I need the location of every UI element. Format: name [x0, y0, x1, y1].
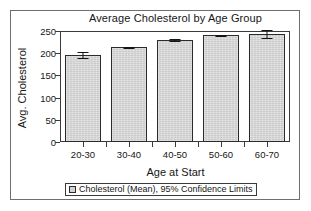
y-axis-tick-mark — [55, 142, 60, 143]
y-axis-tick-label: 0 — [30, 137, 56, 148]
x-axis-tick-label-20-30: 20-30 — [71, 149, 95, 160]
y-axis-tick-label: 100 — [30, 92, 56, 103]
y-axis-tick-mark — [55, 120, 60, 121]
x-axis-title: Age at Start — [60, 166, 291, 178]
bar-50-60 — [203, 35, 239, 142]
x-axis-tick-label-60-70: 60-70 — [255, 149, 279, 160]
x-axis-minor-tick-mark — [106, 142, 107, 147]
legend-label: Cholesterol (Mean), 95% Confidence Limit… — [79, 185, 253, 194]
error-bar-cap-lower-30-40 — [124, 48, 135, 49]
bar-60-70 — [249, 34, 285, 142]
x-axis-minor-tick-mark — [152, 142, 153, 147]
x-axis-tick-label-30-40: 30-40 — [117, 149, 141, 160]
legend-swatch-icon — [69, 186, 76, 193]
bar-30-40 — [111, 47, 147, 142]
x-axis-tick-mark — [83, 142, 84, 147]
y-axis-tick-label: 250 — [30, 26, 56, 37]
x-axis-minor-tick-mark — [198, 142, 199, 147]
error-bar-cap-upper-20-30 — [78, 52, 89, 53]
x-axis-minor-tick-mark — [244, 142, 245, 147]
y-axis-tick-mark — [55, 98, 60, 99]
chart-title: Average Cholesterol by Age Group — [60, 12, 291, 24]
x-axis-tick-label-50-60: 50-60 — [209, 149, 233, 160]
error-bar-cap-lower-60-70 — [262, 38, 273, 39]
error-bar-stem-60-70 — [267, 30, 268, 38]
error-bar-cap-lower-20-30 — [78, 58, 89, 59]
y-axis-tick-labels: 050100150200250 — [27, 0, 56, 211]
y-axis-tick-mark — [55, 75, 60, 76]
chart-legend: Cholesterol (Mean), 95% Confidence Limit… — [65, 183, 257, 196]
x-axis-tick-mark — [175, 142, 176, 147]
error-bar-cap-lower-50-60 — [216, 36, 227, 37]
error-bar-cap-upper-60-70 — [262, 30, 273, 31]
x-axis-tick-mark — [129, 142, 130, 147]
chart-figure: Average Cholesterol by Age Group Avg. Ch… — [0, 0, 311, 211]
x-axis-tick-mark — [267, 142, 268, 147]
x-axis-tick-label-40-50: 40-50 — [163, 149, 187, 160]
bar-20-30 — [65, 55, 101, 142]
y-axis-tick-label: 150 — [30, 70, 56, 81]
y-axis-tick-label: 50 — [30, 114, 56, 125]
x-axis-tick-mark — [221, 142, 222, 147]
y-axis-tick-mark — [55, 31, 60, 32]
error-bar-cap-lower-40-50 — [170, 41, 181, 42]
y-axis-tick-mark — [55, 53, 60, 54]
y-axis-tick-label: 200 — [30, 48, 56, 59]
bar-40-50 — [157, 40, 193, 142]
